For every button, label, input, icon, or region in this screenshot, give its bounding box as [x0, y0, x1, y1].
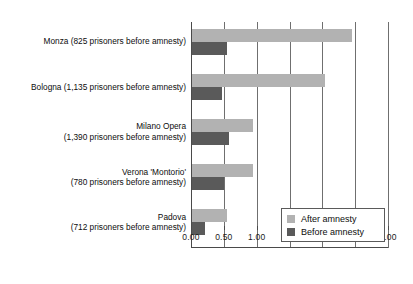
legend-item-after: After amnesty	[287, 212, 380, 225]
x-axis-line	[191, 247, 388, 248]
bar-before-0	[192, 42, 227, 55]
gridline-1.00	[257, 22, 258, 248]
category-label-line: Padova	[0, 212, 186, 223]
bar-after-1	[192, 74, 325, 87]
bar-after-2	[192, 119, 253, 132]
category-label-3: Verona 'Montorio'(780 prisoners before a…	[0, 167, 186, 188]
bar-after-4	[192, 209, 227, 222]
category-label-line: Verona 'Montorio'	[0, 167, 186, 178]
category-label-line: (712 prisoners before amnesty)	[0, 222, 186, 233]
bar-chart: Monza (825 prisoners before amnesty)Bolo…	[0, 0, 413, 284]
tick-mark-0.00	[191, 226, 192, 230]
tick-mark-0.50	[224, 226, 225, 230]
legend-label-before: Before amnesty	[301, 227, 364, 237]
tick-mark-3.00	[388, 226, 389, 230]
tick-label-0.00: 0.00	[182, 232, 199, 242]
legend-label-after: After amnesty	[301, 214, 357, 224]
legend-item-before: Before amnesty	[287, 225, 380, 238]
tick-label-1.00: 1.00	[248, 232, 265, 242]
tick-label-0.50: 0.50	[215, 232, 232, 242]
legend: After amnesty Before amnesty	[281, 208, 385, 242]
legend-swatch-after-icon	[287, 215, 295, 223]
bar-before-1	[192, 87, 222, 100]
gridline-3.00	[388, 22, 389, 248]
category-label-0: Monza (825 prisoners before amnesty)	[0, 36, 186, 47]
legend-swatch-before-icon	[287, 228, 295, 236]
tick-mark-1.00	[257, 226, 258, 230]
bar-before-2	[192, 132, 229, 145]
category-label-line: Milano Opera	[0, 121, 186, 132]
category-label-line: (780 prisoners before amnesty)	[0, 177, 186, 188]
category-label-2: Milano Opera(1,390 prisoners before amne…	[0, 121, 186, 142]
category-label-line: (1,390 prisoners before amnesty)	[0, 132, 186, 143]
category-label-1: Bologna (1,135 prisoners before amnesty)	[0, 82, 186, 93]
category-label-line: Bologna (1,135 prisoners before amnesty)	[0, 82, 186, 93]
bar-after-0	[192, 29, 352, 42]
bar-after-3	[192, 164, 253, 177]
bar-before-3	[192, 177, 224, 190]
category-label-4: Padova(712 prisoners before amnesty)	[0, 212, 186, 233]
category-label-line: Monza (825 prisoners before amnesty)	[0, 36, 186, 47]
